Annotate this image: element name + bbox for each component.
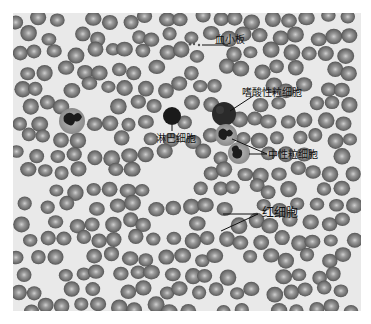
red-blood-cell (108, 163, 123, 176)
label-platelet: 血小板 (215, 34, 245, 45)
red-blood-cell (13, 145, 24, 158)
red-blood-cell (64, 281, 80, 296)
red-blood-cell (90, 297, 106, 311)
red-blood-cell (254, 65, 270, 80)
red-blood-cell (147, 99, 162, 113)
red-blood-cell (190, 50, 204, 63)
red-blood-cell (110, 98, 127, 114)
red-blood-cell (13, 285, 27, 300)
red-blood-cell (238, 168, 254, 181)
red-blood-cell (70, 133, 86, 149)
red-blood-cell (288, 60, 304, 75)
red-blood-cell (232, 61, 249, 77)
red-blood-cell (131, 95, 146, 109)
red-blood-cell (235, 303, 249, 311)
eosinophil-cell (212, 102, 236, 126)
red-blood-cell (20, 67, 35, 80)
red-blood-cell (38, 164, 53, 176)
red-blood-cell (51, 150, 66, 163)
red-blood-cell (329, 199, 344, 212)
red-blood-cell (40, 95, 55, 110)
neutrophil-cell-1 (215, 124, 237, 146)
red-blood-cell (138, 147, 154, 162)
red-blood-cell (284, 44, 301, 60)
red-blood-cell (138, 253, 153, 266)
red-blood-cell (106, 232, 121, 247)
red-blood-cell (217, 305, 231, 311)
red-blood-cell (173, 41, 189, 57)
red-blood-cell (68, 48, 85, 64)
red-blood-cell (321, 13, 335, 22)
red-blood-cell (261, 218, 278, 233)
red-blood-cell (137, 13, 152, 23)
red-blood-cell (281, 115, 296, 128)
red-blood-cell (253, 235, 269, 250)
red-blood-cell (260, 114, 277, 128)
red-blood-cell (20, 162, 36, 176)
red-blood-cell (267, 287, 284, 303)
red-blood-cell (112, 63, 127, 77)
red-blood-cell (341, 66, 357, 81)
platelets (189, 43, 201, 47)
red-blood-cell (346, 198, 361, 214)
red-blood-cell (121, 148, 138, 163)
red-blood-cell (136, 44, 151, 58)
red-blood-cell (334, 284, 349, 297)
red-blood-cell (275, 230, 290, 245)
red-blood-cell (184, 95, 200, 110)
red-blood-cell (47, 44, 62, 57)
red-blood-cell (195, 144, 211, 159)
red-blood-cell (101, 81, 115, 93)
red-blood-cell (263, 248, 279, 262)
red-blood-cell (77, 230, 91, 244)
red-blood-cell (88, 42, 104, 57)
red-blood-cell (143, 265, 160, 280)
red-blood-cell (304, 235, 320, 249)
red-blood-cell (54, 299, 70, 312)
red-blood-cell (220, 269, 237, 285)
red-blood-cell (275, 269, 292, 284)
red-blood-cell (341, 28, 357, 43)
red-blood-cell (269, 60, 284, 74)
red-blood-cell (158, 250, 174, 265)
red-blood-cell (219, 231, 235, 247)
red-blood-cell (71, 161, 87, 176)
red-blood-cell (59, 269, 73, 282)
red-blood-cell (38, 298, 54, 311)
red-blood-cell (87, 117, 103, 131)
red-blood-cell (341, 97, 357, 113)
red-blood-cell (85, 282, 100, 296)
red-blood-cell (189, 216, 206, 231)
red-blood-cell (206, 249, 223, 263)
red-blood-cell (298, 282, 313, 296)
red-blood-cell (200, 231, 215, 245)
red-blood-cell (174, 248, 191, 263)
red-blood-cell (243, 282, 259, 296)
label-neutrophil: 中性粒细胞 (268, 149, 318, 160)
red-blood-cell (334, 83, 350, 98)
red-blood-cell (185, 233, 201, 249)
red-blood-cell (167, 232, 182, 245)
red-blood-cell (102, 182, 118, 197)
red-blood-cell (334, 181, 351, 196)
red-blood-cell (243, 250, 257, 263)
red-blood-cell (193, 80, 207, 92)
red-blood-cell (122, 251, 139, 265)
red-blood-cell (17, 268, 32, 283)
red-blood-cell (49, 184, 63, 196)
red-blood-cell (13, 216, 30, 232)
red-blood-cell (135, 184, 150, 196)
red-blood-cell (318, 112, 335, 129)
red-blood-cell (41, 231, 56, 246)
red-blood-cell (194, 181, 208, 195)
red-blood-cell (284, 285, 299, 300)
red-blood-cell (116, 80, 132, 96)
red-blood-cell (328, 133, 344, 149)
red-blood-cell (322, 166, 338, 182)
red-blood-cell (278, 253, 294, 269)
red-blood-cell (325, 29, 342, 45)
red-blood-cell (124, 195, 141, 211)
red-blood-cell (341, 13, 355, 23)
red-blood-cell (75, 27, 90, 42)
red-blood-cell (184, 66, 199, 81)
